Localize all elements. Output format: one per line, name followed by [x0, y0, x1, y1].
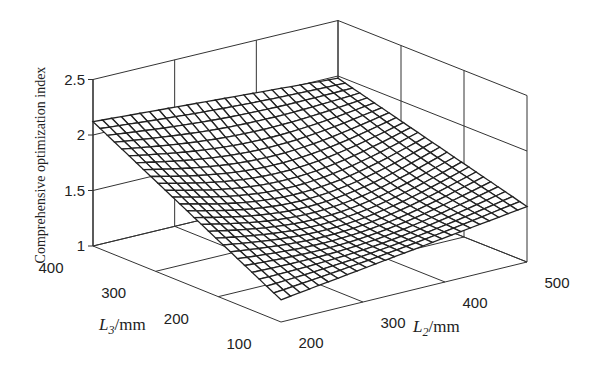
z-tick-label: 2.5 [64, 71, 85, 88]
z-tick-label: 1 [77, 237, 85, 254]
y-tick-label: 100 [226, 335, 251, 352]
x-tick-label: 300 [380, 314, 405, 331]
z-tick-label: 2 [77, 126, 85, 143]
x-tick-label: 400 [462, 294, 487, 311]
x-tick-label: 500 [544, 274, 569, 291]
y-axis-label-sub: 3 [107, 323, 114, 337]
side-wall-grid-line [338, 21, 527, 96]
y-tick-label: 200 [164, 310, 189, 327]
y-axis-label-unit: /mm [114, 315, 145, 334]
y-tick-label: 400 [38, 259, 63, 276]
x-axis-label-unit: /mm [428, 317, 459, 336]
surface-mesh [93, 78, 527, 300]
back-wall-grid-line [93, 21, 338, 80]
y-tick-label: 300 [101, 284, 126, 301]
x-tick-label: 200 [298, 334, 323, 351]
x-axis-label: L2/mm [412, 317, 460, 339]
z-tick-label: 1.5 [64, 182, 85, 199]
y-axis-label: L3/mm [98, 315, 146, 337]
y-axis-label-main: L [98, 315, 108, 334]
z-axis-label: Comprehensive optimization index [33, 67, 48, 264]
x-axis-label-main: L [412, 317, 422, 336]
surface-chart: Comprehensive optimization index L3/mm L… [0, 0, 602, 369]
